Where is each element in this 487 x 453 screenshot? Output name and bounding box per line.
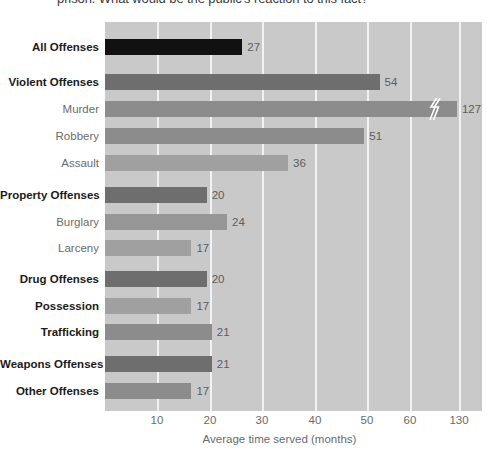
chart-row: Assault36 — [0, 154, 487, 172]
chart-row: Property Offenses20 — [0, 186, 487, 204]
bar — [105, 356, 212, 372]
chart-row: Possession17 — [0, 297, 487, 315]
category-label: Drug Offenses — [0, 270, 99, 288]
bar-value-label: 24 — [232, 213, 245, 231]
category-label: Larceny — [0, 239, 99, 257]
bar-value-label: 17 — [196, 297, 209, 315]
bar — [105, 383, 191, 399]
x-axis-tick: 40 — [295, 414, 335, 426]
category-label: Weapons Offenses — [0, 355, 99, 373]
chart-row: All Offenses27 — [0, 38, 487, 56]
bar-value-label: 27 — [247, 38, 260, 56]
x-axis-tick: 30 — [242, 414, 282, 426]
category-label: Possession — [0, 297, 99, 315]
x-axis-tick: 50 — [347, 414, 387, 426]
bar — [105, 214, 227, 230]
chart-row: Murder127 — [0, 100, 487, 118]
bar-value-label: 21 — [217, 355, 230, 373]
bar — [105, 271, 207, 287]
chart-title-text: prison. What would be the public's react… — [57, 0, 368, 6]
chart-row: Burglary24 — [0, 213, 487, 231]
chart-row: Larceny17 — [0, 239, 487, 257]
bar — [105, 39, 242, 55]
category-label: Other Offenses — [0, 382, 99, 400]
x-axis-tick: 20 — [190, 414, 230, 426]
x-axis-tick: 10 — [137, 414, 177, 426]
x-axis-tick: 60 — [390, 414, 430, 426]
category-label: Murder — [0, 100, 99, 118]
bar — [105, 240, 191, 256]
bar-value-label: 20 — [212, 186, 225, 204]
bar-value-label: 127 — [462, 100, 481, 118]
chart-row: Drug Offenses20 — [0, 270, 487, 288]
category-label: Violent Offenses — [0, 73, 99, 91]
bar-value-label: 21 — [217, 323, 230, 341]
bar — [105, 324, 212, 340]
category-label: Robbery — [0, 127, 99, 145]
bar — [105, 155, 288, 171]
category-label: Property Offenses — [0, 186, 99, 204]
bar — [105, 298, 191, 314]
chart-title-clipped: prison. What would be the public's react… — [0, 0, 487, 10]
bar — [105, 128, 364, 144]
category-label: All Offenses — [0, 38, 99, 56]
bar-value-label: 54 — [385, 73, 398, 91]
chart-row: Weapons Offenses21 — [0, 355, 487, 373]
chart-root: prison. What would be the public's react… — [0, 0, 487, 453]
chart-row: Robbery51 — [0, 127, 487, 145]
bar — [105, 74, 380, 90]
category-label: Trafficking — [0, 323, 99, 341]
chart-row: Trafficking21 — [0, 323, 487, 341]
bar-value-label: 20 — [212, 270, 225, 288]
chart-row: Violent Offenses54 — [0, 73, 487, 91]
category-label: Burglary — [0, 213, 99, 231]
x-axis-title-text: Average time served (months) — [203, 433, 357, 445]
axis-break-icon — [427, 98, 443, 120]
category-label: Assault — [0, 154, 99, 172]
x-axis-title: Average time served (months) — [0, 433, 487, 445]
bar — [105, 101, 457, 117]
chart-row: Other Offenses17 — [0, 382, 487, 400]
bar — [105, 187, 207, 203]
bar-value-label: 17 — [196, 239, 209, 257]
bar-value-label: 36 — [293, 154, 306, 172]
x-axis-tick: 130 — [439, 414, 479, 426]
bar-value-label: 17 — [196, 382, 209, 400]
bar-value-label: 51 — [369, 127, 382, 145]
